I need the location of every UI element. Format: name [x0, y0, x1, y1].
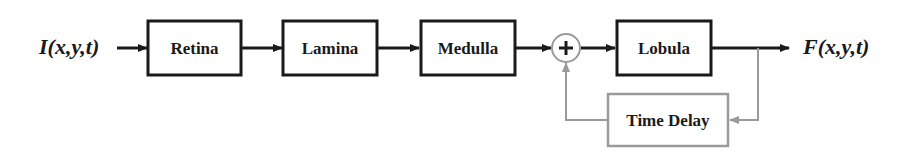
output-signal-label: F(x,y,t): [803, 36, 869, 58]
feedback-delay-to-sum: [566, 63, 608, 120]
feedback-branch-to-delay: [730, 48, 758, 120]
input-signal-label: I(x,y,t): [39, 36, 99, 58]
lamina-label: Lamina: [283, 40, 377, 57]
lobula-label: Lobula: [617, 40, 711, 57]
medulla-label: Medulla: [421, 40, 515, 57]
retina-label: Retina: [148, 40, 241, 57]
block-diagram: [0, 0, 916, 155]
time-delay-label: Time Delay: [608, 112, 728, 129]
